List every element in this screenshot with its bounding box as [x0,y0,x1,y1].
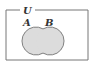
venn-diagram: U A B [0,0,93,67]
set-a-label: A [22,17,31,28]
universe-label: U [23,5,33,16]
union-region [22,27,64,55]
set-b-label: B [44,17,53,28]
